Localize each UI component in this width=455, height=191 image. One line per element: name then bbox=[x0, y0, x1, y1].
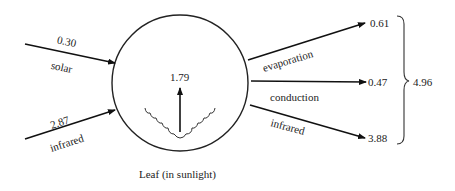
evaporation-output-value: 0.61 bbox=[370, 17, 389, 29]
infrared-output-arrow bbox=[250, 105, 365, 138]
output-total-value: 4.96 bbox=[413, 76, 433, 88]
leaf-caption: Leaf (in sunlight) bbox=[139, 168, 216, 181]
leaf-energy-diagram: 0.30 solar 2.87 infrared 1.79 evaporatio… bbox=[0, 0, 455, 191]
output-sum-brace bbox=[397, 16, 409, 144]
conduction-output-value: 0.47 bbox=[368, 76, 388, 88]
infrared-input-value: 2.87 bbox=[49, 113, 71, 131]
evaporation-output-label: evaporation bbox=[261, 47, 315, 74]
stored-energy-value: 1.79 bbox=[170, 71, 190, 83]
infrared-input-label: infrared bbox=[48, 132, 85, 154]
conduction-output-arrow bbox=[251, 81, 366, 82]
conduction-output-label: conduction bbox=[270, 91, 319, 103]
solar-input-value: 0.30 bbox=[56, 33, 78, 49]
solar-input-label: solar bbox=[50, 59, 74, 75]
infrared-output-value: 3.88 bbox=[368, 132, 388, 144]
